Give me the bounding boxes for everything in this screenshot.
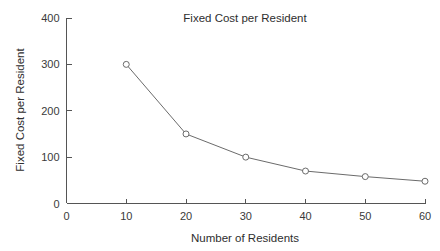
x-tick-label: 60 [419,210,431,222]
y-tick-label: 400 [41,12,59,24]
x-tick-label: 10 [120,210,132,222]
chart-title: Fixed Cost per Resident [183,12,307,24]
y-tick-label: 0 [53,198,59,210]
x-tick-label: 50 [359,210,371,222]
x-tick-label: 40 [299,210,311,222]
x-tick-label: 30 [240,210,252,222]
data-point-marker [243,154,249,160]
data-point-marker [183,131,189,137]
y-axis-label: Fixed Cost per Resident [14,48,26,172]
y-tick-label: 200 [41,105,59,117]
data-point-marker [123,61,129,67]
x-tick-label: 0 [63,210,69,222]
x-tick-label: 20 [180,210,192,222]
chart-container: Fixed Cost per Resident 0100200300400 01… [0,0,440,251]
series-line-fixed-cost [126,64,425,181]
data-point-marker [303,168,309,174]
x-axis-ticks: 0102030405060 [63,199,431,222]
line-chart: Fixed Cost per Resident 0100200300400 01… [0,0,440,251]
x-axis-label: Number of Residents [191,232,299,244]
data-point-marker [362,174,368,180]
y-tick-label: 100 [41,151,59,163]
y-tick-label: 300 [41,58,59,70]
series-markers [123,61,428,184]
data-point-marker [422,178,428,184]
